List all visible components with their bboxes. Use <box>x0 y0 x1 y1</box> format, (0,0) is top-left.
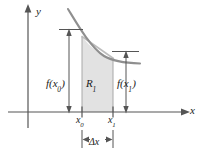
x-axis-arrowhead <box>181 108 190 115</box>
x-axis-label: x <box>190 105 195 116</box>
right-height-label: f(x1) <box>117 78 136 92</box>
height-arrow-left <box>59 29 83 114</box>
y-axis-arrowhead <box>25 4 32 13</box>
region-label: R1 <box>86 78 96 92</box>
left-height-label: f(x0) <box>46 78 65 92</box>
function-curve <box>68 9 140 64</box>
delta-x-label: Δx <box>89 137 99 147</box>
figure-canvas <box>0 0 203 160</box>
y-axis-label: y <box>36 6 41 17</box>
tick-label-x1: x1 <box>108 115 116 128</box>
tick-label-x0: x0 <box>76 115 84 128</box>
figure-container: y x f(x0) R1 f(x1) x0 x1 Δx <box>0 0 203 160</box>
